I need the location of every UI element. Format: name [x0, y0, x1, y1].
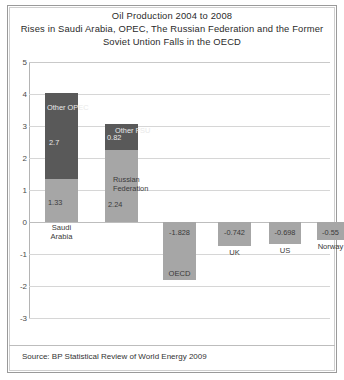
category-label: UK — [218, 248, 251, 257]
bar-segment[interactable] — [317, 222, 344, 240]
bar-group[interactable]: -0.698US — [269, 62, 301, 318]
bar-segment[interactable] — [269, 222, 301, 244]
plot-area: 543210-1-2-31.33Other OPEC2.7SaudiArabia… — [29, 62, 330, 318]
y-axis-tick--2: -2 — [3, 282, 27, 291]
y-axis-tick-5: 5 — [3, 58, 27, 67]
bar-group[interactable]: -0.742UK — [218, 62, 251, 318]
bar-group[interactable]: RussianFederation2.24Other FSU0.82 — [105, 62, 138, 318]
bar-segment[interactable] — [105, 150, 138, 222]
y-axis-tick-0: 0 — [3, 218, 27, 227]
y-axis-tick-3: 3 — [3, 122, 27, 131]
chart-title-line-1: Oil Production 2004 to 2008 — [9, 9, 335, 22]
bar-group[interactable]: -0.55Norway — [317, 62, 344, 318]
category-label: US — [269, 246, 301, 255]
y-axis-tick-4: 4 — [3, 90, 27, 99]
chart-title-line-3: Soviet Untion Falls in the OECD — [9, 35, 335, 48]
bar-group[interactable]: -1.828OECD — [163, 62, 196, 318]
y-axis-tick--3: -3 — [3, 314, 27, 323]
y-axis-tick--1: -1 — [3, 250, 27, 259]
y-axis-tick-2: 2 — [3, 154, 27, 163]
chart-title-line-2: Rises in Saudi Arabia, OPEC, The Russian… — [9, 22, 335, 35]
bar-segment[interactable] — [45, 93, 78, 179]
bar-group[interactable]: 1.33Other OPEC2.7SaudiArabia — [45, 62, 78, 318]
chart-title: Oil Production 2004 to 2008 Rises in Sau… — [9, 9, 335, 49]
bar-segment[interactable] — [105, 124, 138, 150]
chart-page: Oil Production 2004 to 2008 Rises in Sau… — [0, 0, 344, 380]
category-label: SaudiArabia — [45, 223, 78, 242]
y-axis-tick-1: 1 — [3, 186, 27, 195]
gridline--3 — [29, 318, 330, 319]
category-label: Norway — [317, 242, 344, 251]
bar-segment[interactable] — [218, 222, 251, 246]
source-note: Source: BP Statistical Review of World E… — [22, 352, 207, 361]
category-label: OECD — [163, 269, 196, 278]
source-separator — [9, 345, 335, 346]
bar-segment[interactable] — [45, 179, 78, 222]
